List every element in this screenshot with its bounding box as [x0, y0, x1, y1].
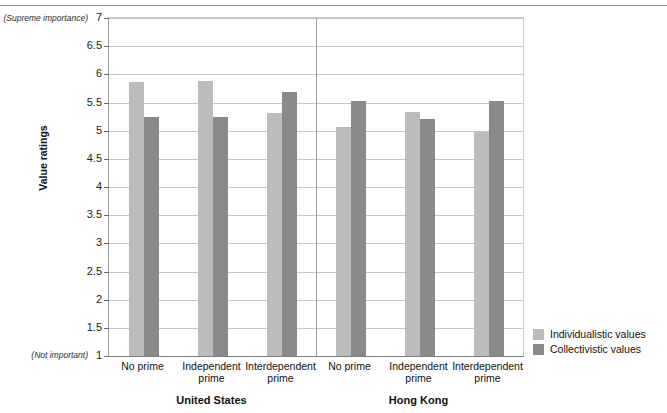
y-axis-tick	[104, 131, 109, 132]
x-axis-category-label: No prime	[104, 360, 181, 372]
chart-legend: Individualistic values Collectivistic va…	[533, 327, 663, 357]
x-axis-group-label: Hong Kong	[315, 394, 522, 406]
bar	[489, 101, 504, 356]
light-gray-swatch	[533, 329, 544, 340]
bar	[474, 132, 489, 356]
figure-panel: Value ratings 11.522.533.544.555.566.57(…	[0, 0, 667, 413]
y-axis-tick-label: 4.5	[2, 153, 102, 163]
y-axis-tick	[104, 215, 109, 216]
group-separator	[316, 18, 317, 356]
bar	[405, 112, 420, 356]
y-axis-tick-label: 6.5	[2, 40, 102, 50]
y-axis-tick-label: 3	[2, 237, 102, 247]
y-axis-tick	[104, 243, 109, 244]
y-axis-tick-label: 6	[2, 68, 102, 78]
y-axis-tick	[104, 272, 109, 273]
x-axis-category-label: Interdependent prime	[242, 360, 319, 384]
y-axis-tick-label: 3.5	[2, 209, 102, 219]
bar	[129, 82, 144, 356]
dark-gray-swatch	[533, 344, 544, 355]
y-axis-tick	[104, 46, 109, 47]
legend-label-individualistic: Individualistic values	[550, 328, 646, 340]
bar	[198, 81, 213, 356]
plot-area	[108, 17, 524, 357]
y-axis-bottom-annotation: (Not important)	[31, 350, 88, 360]
x-axis-category-label: Independent prime	[173, 360, 250, 384]
y-axis-tick	[104, 18, 109, 19]
bar	[351, 101, 366, 356]
y-axis-top-annotation: (Supreme importance)	[3, 13, 88, 23]
y-axis-tick	[104, 159, 109, 160]
y-axis-labels: Value ratings 11.522.533.544.555.566.57(…	[0, 0, 102, 413]
x-axis-group-label: United States	[108, 394, 315, 406]
y-axis-tick-label: 1.5	[2, 322, 102, 332]
y-axis-tick	[104, 74, 109, 75]
bar	[267, 113, 282, 356]
y-axis-tick	[104, 356, 109, 357]
y-axis-tick-label: 2	[2, 294, 102, 304]
y-axis-tick-label: 5	[2, 125, 102, 135]
bar	[144, 117, 159, 356]
bar	[420, 119, 435, 356]
x-axis-category-label: Interdependent prime	[449, 360, 526, 384]
y-axis-tick-label: 4	[2, 181, 102, 191]
legend-item-individualistic: Individualistic values	[533, 327, 663, 342]
y-axis-tick-label: 5.5	[2, 97, 102, 107]
bar	[336, 127, 351, 356]
y-axis-tick	[104, 328, 109, 329]
legend-label-collectivistic: Collectivistic values	[550, 343, 641, 355]
y-axis-tick	[104, 103, 109, 104]
x-axis-category-label: No prime	[311, 360, 388, 372]
bar	[282, 92, 297, 356]
legend-item-collectivistic: Collectivistic values	[533, 342, 663, 357]
y-axis-tick	[104, 300, 109, 301]
y-axis-tick	[104, 187, 109, 188]
x-axis-category-label: Independent prime	[380, 360, 457, 384]
bar	[213, 117, 228, 356]
y-axis-tick-label: 2.5	[2, 266, 102, 276]
